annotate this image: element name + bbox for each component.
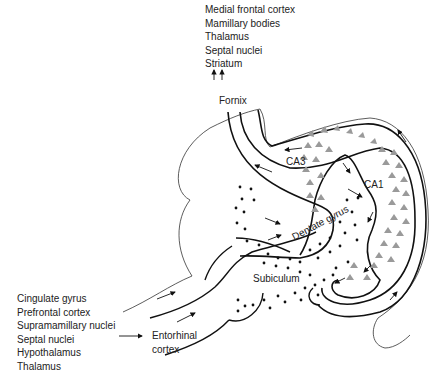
ca1-label: CA1 <box>364 178 383 192</box>
output-target: Septal nuclei <box>205 44 295 58</box>
input-source: Thalamus <box>17 360 115 374</box>
ca3-label: CA3 <box>286 155 305 169</box>
entorhinal-cortex-label: Entorhinal cortex <box>152 329 197 356</box>
subiculum-label: Subiculum <box>253 272 300 286</box>
output-target: Striatum <box>205 57 295 71</box>
input-source: Cingulate gyrus <box>17 292 115 306</box>
output-targets-list: Medial frontal cortex Mamillary bodies T… <box>205 3 295 71</box>
output-target: Mamillary bodies <box>205 17 295 31</box>
output-target: Thalamus <box>205 30 295 44</box>
input-source: Prefrontal cortex <box>17 306 115 320</box>
input-source: Supramamillary nuclei <box>17 319 115 333</box>
entorhinal-label-line1: Entorhinal <box>152 329 197 343</box>
input-sources-list: Cingulate gyrus Prefrontal cortex Supram… <box>17 292 115 373</box>
entorhinal-label-line2: cortex <box>152 343 197 357</box>
fornix-label: Fornix <box>219 94 247 108</box>
input-source: Septal nuclei <box>17 333 115 347</box>
subiculum-curve <box>229 288 320 321</box>
pyramidal-cells <box>300 125 410 280</box>
input-source: Hypothalamus <box>17 346 115 360</box>
output-target: Medial frontal cortex <box>205 3 295 17</box>
